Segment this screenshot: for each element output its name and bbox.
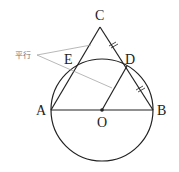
label-c: C xyxy=(95,8,104,23)
center-point-o xyxy=(100,108,104,112)
segment-od xyxy=(102,66,127,110)
label-b: B xyxy=(157,103,166,118)
geometry-diagram: 平行 C E D A B O xyxy=(0,0,179,172)
annotation-line-od xyxy=(37,55,112,88)
label-d: D xyxy=(125,52,135,67)
segment-ac xyxy=(51,27,100,110)
parallel-annotation: 平行 xyxy=(15,50,31,60)
label-e: E xyxy=(64,52,73,67)
diagram-svg: 平行 C E D A B O xyxy=(0,0,179,172)
label-o: O xyxy=(97,115,107,130)
label-a: A xyxy=(36,103,47,118)
segment-cb xyxy=(100,27,153,110)
